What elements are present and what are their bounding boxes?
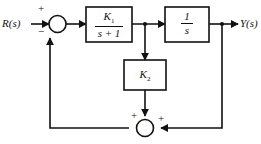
block-integrator-numerator: 1	[181, 11, 193, 24]
block-integrator-label: 1 s	[165, 11, 209, 36]
branch-node-output	[220, 22, 224, 26]
block-k1-label: K1 s + 1	[86, 11, 132, 39]
bottom-summing-junction	[137, 120, 154, 137]
block-integrator-denominator: s	[181, 24, 193, 37]
block-k2-label: K2	[124, 69, 166, 83]
top-summer-plus-sign: +	[38, 3, 44, 14]
block-k1-denominator: s + 1	[95, 27, 124, 40]
bottom-summer-plus-sign-right: +	[158, 113, 164, 124]
wire-bottom-summer-to-top-summer	[50, 38, 129, 128]
top-summer-minus-sign: −	[38, 26, 44, 37]
input-label: R(s)	[2, 18, 20, 29]
block-diagram: R(s) Y(s) + − + + K1 s + 1 1 s K2	[0, 0, 261, 144]
top-summing-junction	[49, 16, 66, 33]
branch-node-k1-output	[143, 22, 147, 26]
block-k1-numerator: K1	[95, 11, 124, 27]
output-label: Y(s)	[240, 18, 258, 29]
bottom-summer-plus-sign-left: +	[131, 110, 137, 121]
